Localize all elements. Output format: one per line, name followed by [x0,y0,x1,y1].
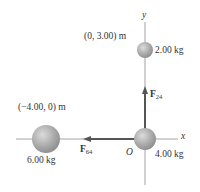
force-f24-subscript: 24 [156,93,163,100]
origin-label: O [126,147,133,157]
force-f64-subscript: 64 [86,148,93,155]
force-f24-arrowhead [142,86,148,94]
mass-label-2kg: 2.00 kg [155,45,184,55]
force-f64-arrowhead [83,136,91,142]
sphere-2kg [137,42,153,58]
y-axis-label: y [142,10,146,20]
sphere-4kg [134,128,156,150]
force-f64-label: F64 [80,144,92,155]
mass-label-6kg: 6.00 kg [27,155,56,165]
position-label-2kg: (0, 3.00) m [84,31,126,41]
position-label-6kg: (−4.00, 0) m [18,102,66,112]
force-f24-label: F24 [150,89,162,100]
mass-label-4kg: 4.00 kg [155,149,184,159]
x-axis-label: x [181,131,185,141]
sphere-6kg [32,125,60,153]
